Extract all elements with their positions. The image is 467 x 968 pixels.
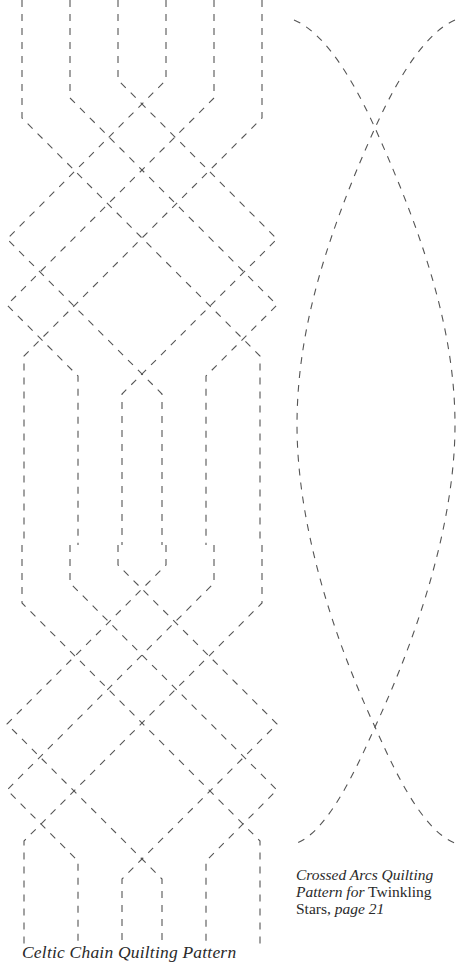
caption-line-3: Stars, page 21 — [296, 900, 433, 917]
caption-line-2: Pattern for Twinkling — [296, 883, 433, 900]
stitch-line — [118, 0, 277, 545]
stitch-line — [7, 0, 166, 545]
pattern-canvas — [0, 0, 467, 968]
celtic-chain-caption: Celtic Chain Quilting Pattern — [22, 942, 236, 963]
crossed-arcs-caption: Crossed Arcs Quilting Pattern for Twinkl… — [296, 866, 433, 917]
crossed-arcs-pattern — [294, 20, 455, 843]
stitch-line — [118, 545, 277, 945]
stitch-line — [7, 545, 214, 945]
stitch-line — [7, 0, 214, 545]
caption-line-1: Crossed Arcs Quilting — [296, 866, 433, 883]
stitch-line — [7, 545, 166, 945]
stitch-line — [70, 545, 277, 945]
stitch-line — [22, 545, 260, 945]
stitch-line — [70, 0, 277, 545]
stitch-line — [24, 545, 262, 945]
celtic-chain-pattern — [7, 0, 277, 945]
stitch-line — [22, 0, 260, 545]
right-arc-line — [297, 20, 455, 843]
stitch-line — [24, 0, 262, 545]
left-arc-line — [294, 20, 455, 843]
